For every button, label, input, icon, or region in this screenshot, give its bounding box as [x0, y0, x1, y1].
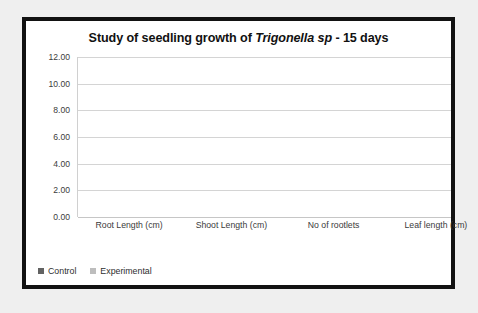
- plot-area: 12.00 10.00 8.00 6.00 4.00 2.00 0.00: [34, 57, 451, 217]
- image-frame: Study of seedling growth of Trigonella s…: [22, 17, 455, 289]
- y-tick-label: 8.00: [53, 105, 70, 115]
- legend-item-experimental[interactable]: Experimental: [90, 266, 151, 276]
- y-tick-label: 4.00: [53, 159, 70, 169]
- y-tick-label: 10.00: [48, 79, 70, 89]
- y-tick-label: 12.00: [48, 52, 70, 62]
- chart-title: Study of seedling growth of Trigonella s…: [26, 31, 451, 45]
- bar-group: [358, 57, 451, 217]
- legend-swatch-icon: [90, 268, 96, 274]
- y-tick-label: 2.00: [53, 185, 70, 195]
- x-category-label: Shoot Length (cm): [180, 220, 282, 231]
- legend-item-control[interactable]: Control: [38, 266, 76, 276]
- bar-group: [78, 57, 171, 217]
- y-axis: 12.00 10.00 8.00 6.00 4.00 2.00 0.00: [34, 57, 74, 217]
- bar-group: [171, 57, 264, 217]
- x-axis: Root Length (cm) Shoot Length (cm) No of…: [78, 220, 478, 231]
- chart-container: Study of seedling growth of Trigonella s…: [26, 21, 451, 285]
- chart-title-prefix: Study of seedling growth of: [89, 31, 256, 45]
- gridline-baseline: [78, 217, 451, 218]
- bars-layer: [78, 57, 451, 217]
- y-tick-label: 6.00: [53, 132, 70, 142]
- x-category-label: No of rootlets: [283, 220, 385, 231]
- legend-swatch-icon: [38, 268, 44, 274]
- legend-label: Control: [48, 266, 76, 276]
- chart-title-species: Trigonella sp: [255, 31, 332, 45]
- screenshot-page: Study of seedling growth of Trigonella s…: [0, 0, 478, 313]
- x-category-label: Root Length (cm): [78, 220, 180, 231]
- plot-box: [78, 57, 451, 217]
- legend-label: Experimental: [100, 266, 151, 276]
- y-tick-label: 0.00: [53, 212, 70, 222]
- x-category-label: Leaf length (cm): [385, 220, 478, 231]
- chart-legend: Control Experimental: [38, 266, 152, 276]
- bar-group: [265, 57, 358, 217]
- chart-title-suffix: - 15 days: [332, 31, 388, 45]
